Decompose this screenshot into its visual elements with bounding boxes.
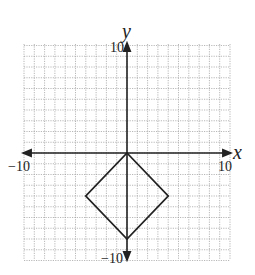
- x-max-tick-label: 10: [218, 159, 232, 174]
- y-min-tick-label: −10: [101, 251, 123, 266]
- axes: [23, 43, 231, 260]
- x-min-tick-label: −10: [8, 159, 30, 174]
- coordinate-plane: x y −10 10 10 −10: [0, 0, 255, 275]
- y-max-tick-label: 10: [110, 40, 124, 55]
- x-axis-label: x: [232, 141, 242, 163]
